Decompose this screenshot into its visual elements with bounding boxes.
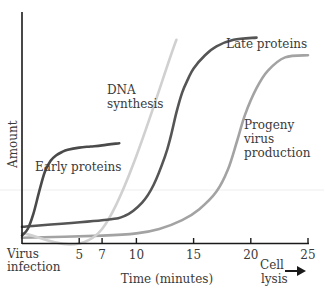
cell-lysis-arrow-icon (285, 266, 306, 276)
label-progeny-line2: virus (243, 132, 274, 146)
y-axis-title: Amount (6, 120, 20, 169)
x-tick-label: 15 (186, 248, 201, 262)
x-tick-label: 7 (98, 248, 106, 262)
label-dna-synthesis-line1: DNA (107, 83, 136, 97)
x-tick-label: 5 (75, 248, 83, 262)
label-progeny-line3: production (244, 146, 311, 160)
label-progeny-line1: Progeny (244, 118, 295, 132)
x-tick-label: 20 (243, 248, 258, 262)
label-dna-synthesis-line2: synthesis (107, 97, 163, 111)
series-line-late-proteins (22, 38, 257, 227)
x-end-label-line2: lysis (261, 272, 288, 286)
x-tick-label: 10 (129, 248, 144, 262)
x-start-label-line2: infection (7, 260, 61, 274)
series-line-dna-synthesis (22, 40, 176, 245)
x-end-label-line1: Cell (260, 258, 284, 272)
x-axis-title: Time (minutes) (121, 272, 213, 286)
label-early-proteins: Early proteins (35, 160, 121, 174)
label-late-proteins: Late proteins (226, 37, 307, 51)
chart: 5710152025 Amount Time (minutes) Virus i… (0, 0, 324, 298)
x-start-label-line1: Virus (6, 247, 39, 261)
x-tick-label: 25 (300, 248, 315, 262)
